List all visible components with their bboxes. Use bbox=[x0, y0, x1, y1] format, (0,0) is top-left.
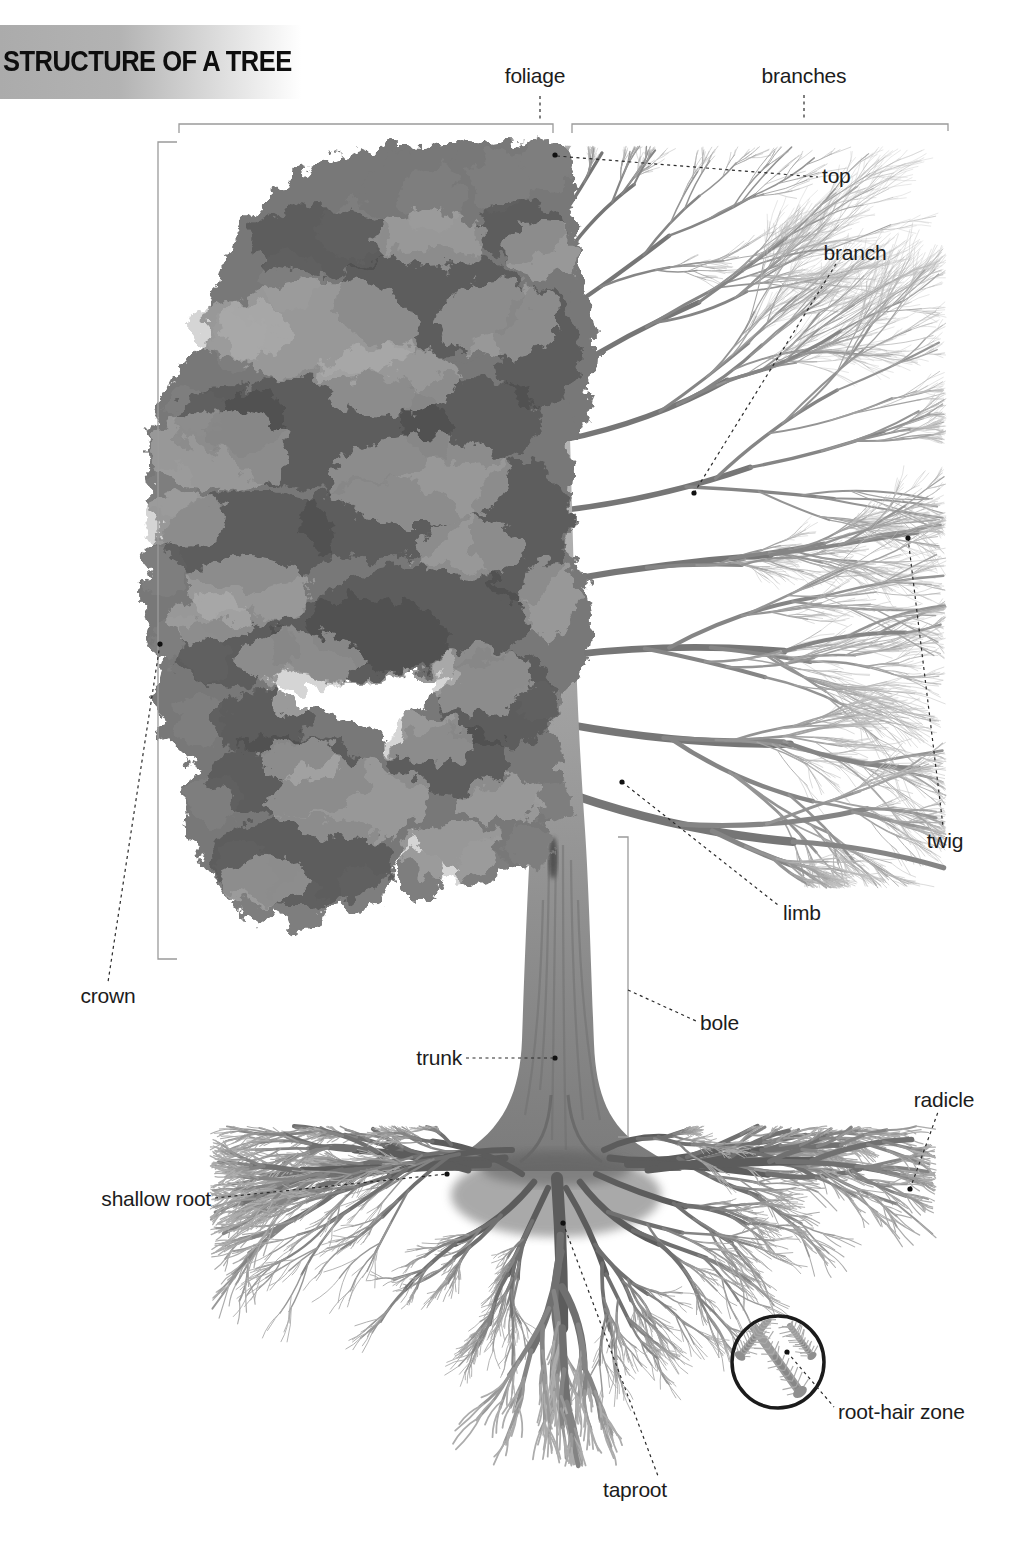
label-foliage: foliage bbox=[505, 65, 565, 87]
marker-dot-root-hair bbox=[784, 1349, 789, 1354]
marker-dot-shallow-root bbox=[444, 1171, 449, 1176]
marker-dot-branch bbox=[691, 490, 696, 495]
marker-dot-top bbox=[552, 152, 557, 157]
leader-crown bbox=[108, 644, 160, 982]
label-branch: branch bbox=[823, 242, 886, 264]
foliage-illustration bbox=[142, 139, 595, 931]
label-radicle: radicle bbox=[914, 1089, 974, 1111]
label-shallow-root: shallow root bbox=[101, 1188, 211, 1210]
page: STRUCTURE OF A TREE bbox=[0, 0, 1034, 1552]
label-bole: bole bbox=[700, 1012, 739, 1034]
label-taproot: taproot bbox=[603, 1479, 667, 1501]
label-twig: twig bbox=[927, 830, 964, 852]
bare-branches-illustration bbox=[556, 146, 946, 888]
bracket-foliage bbox=[179, 124, 553, 133]
label-root-hair-zone: root-hair zone bbox=[838, 1401, 965, 1423]
leader-bole bbox=[628, 990, 696, 1021]
label-limb: limb bbox=[783, 902, 821, 924]
leader-branch bbox=[694, 264, 836, 493]
label-crown: crown bbox=[80, 985, 135, 1007]
marker-dot-crown bbox=[157, 641, 162, 646]
marker-dot-taproot bbox=[560, 1220, 565, 1225]
marker-dot-radicle bbox=[907, 1186, 912, 1191]
label-trunk: trunk bbox=[416, 1047, 462, 1069]
root-hair-zone-inset bbox=[732, 1307, 824, 1408]
marker-dot-twig bbox=[905, 535, 910, 540]
marker-dot-trunk bbox=[552, 1055, 557, 1060]
label-branches: branches bbox=[762, 65, 847, 87]
bracket-bole bbox=[618, 837, 628, 1137]
label-top: top bbox=[822, 165, 851, 187]
leader-limb bbox=[622, 782, 778, 905]
marker-dot-limb bbox=[619, 779, 624, 784]
bracket-branches bbox=[572, 124, 948, 133]
tree-diagram bbox=[0, 0, 1034, 1552]
